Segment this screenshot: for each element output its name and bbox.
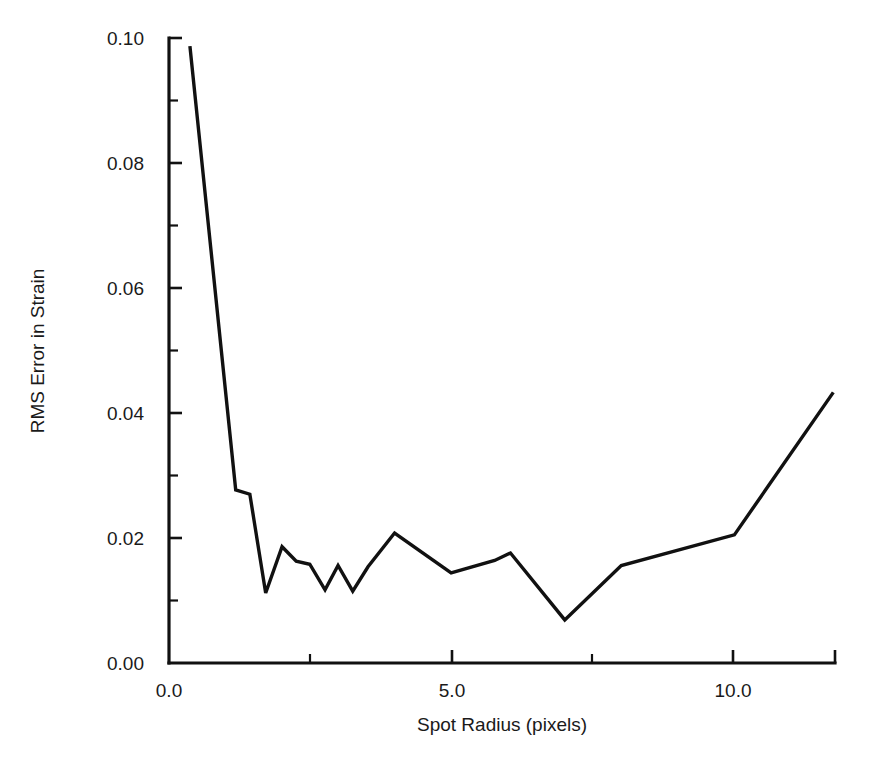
x-tick-label-10.0: 10.0 <box>715 680 752 701</box>
y-tick-label-0.10: 0.10 <box>107 28 144 49</box>
y-tick-label-0.04: 0.04 <box>107 403 144 424</box>
y-tick-label-0.06: 0.06 <box>107 278 144 299</box>
y-tick-label-0.00: 0.00 <box>107 653 144 674</box>
x-tick-label-5.0: 5.0 <box>439 680 465 701</box>
line-chart: RMS Error in Strain Spot Radius (pixels)… <box>0 0 873 767</box>
x-tick-label-0.0: 0.0 <box>156 680 182 701</box>
chart-figure: RMS Error in Strain Spot Radius (pixels)… <box>0 0 873 767</box>
y-axis-title: RMS Error in Strain <box>27 269 48 434</box>
y-tick-label-0.08: 0.08 <box>107 153 144 174</box>
data-series-line <box>190 46 833 620</box>
x-major-ticks <box>452 650 835 663</box>
y-tick-label-0.02: 0.02 <box>107 528 144 549</box>
x-axis-title: Spot Radius (pixels) <box>417 714 587 735</box>
